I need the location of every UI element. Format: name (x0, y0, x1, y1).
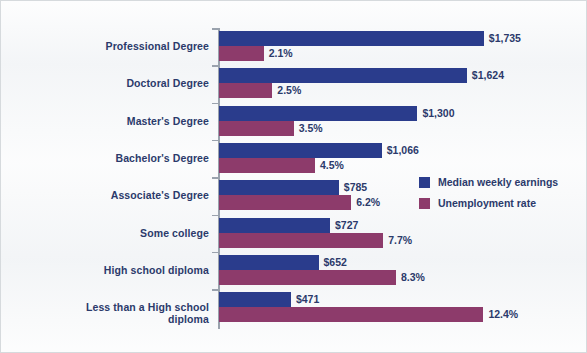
category-label: High school diploma (9, 264, 209, 276)
chart-legend: Median weekly earningsUnemployment rate (419, 176, 558, 218)
bar-median-weekly-earnings (219, 106, 417, 121)
category-label: Professional Degree (9, 40, 209, 52)
legend-label: Unemployment rate (438, 197, 536, 209)
axis-tick (212, 103, 218, 105)
category-label: Associate's Degree (9, 189, 209, 201)
bar-value-earnings: $652 (324, 255, 347, 270)
bar-value-unemployment: 7.7% (388, 233, 412, 248)
legend-swatch-icon (419, 198, 430, 209)
bar-value-unemployment: 2.1% (269, 46, 293, 61)
axis-tick (212, 65, 218, 67)
legend-swatch-icon (419, 177, 430, 188)
bar-unemployment-rate (219, 270, 396, 285)
bar-unemployment-rate (219, 158, 315, 173)
bar-unemployment-rate (219, 83, 272, 98)
bar-value-unemployment: 8.3% (401, 270, 425, 285)
axis-tick (212, 177, 218, 179)
legend-item: Median weekly earnings (419, 176, 558, 188)
axis-tick (212, 289, 218, 291)
bar-median-weekly-earnings (219, 180, 339, 195)
chart-container: Professional DegreeDoctoral DegreeMaster… (0, 0, 587, 353)
bar-median-weekly-earnings (219, 292, 291, 307)
legend-label: Median weekly earnings (438, 176, 558, 188)
bar-value-earnings: $1,735 (489, 31, 521, 46)
axis-tick (212, 28, 218, 30)
bar-median-weekly-earnings (219, 218, 330, 233)
bar-unemployment-rate (219, 307, 483, 322)
category-label: Less than a High school diploma (9, 301, 209, 325)
bar-unemployment-rate (219, 195, 351, 210)
bar-value-unemployment: 4.5% (320, 158, 344, 173)
bar-value-earnings: $471 (296, 292, 319, 307)
bar-value-earnings: $1,066 (387, 143, 419, 158)
bar-median-weekly-earnings (219, 68, 467, 83)
bar-value-earnings: $1,300 (422, 106, 454, 121)
bar-value-unemployment: 2.5% (277, 83, 301, 98)
axis-tick (212, 215, 218, 217)
legend-item: Unemployment rate (419, 197, 558, 209)
bar-value-earnings: $1,624 (472, 68, 504, 83)
axis-tick (212, 140, 218, 142)
bar-median-weekly-earnings (219, 31, 484, 46)
bar-unemployment-rate (219, 233, 383, 248)
bar-value-earnings: $727 (335, 218, 358, 233)
category-label: Doctoral Degree (9, 77, 209, 89)
bar-unemployment-rate (219, 46, 264, 61)
bar-value-unemployment: 3.5% (299, 121, 323, 136)
bar-value-earnings: $785 (344, 180, 367, 195)
axis-tick (212, 252, 218, 254)
bar-value-unemployment: 6.2% (356, 195, 380, 210)
category-label: Master's Degree (9, 115, 209, 127)
category-label: Bachelor's Degree (9, 152, 209, 164)
bar-median-weekly-earnings (219, 143, 382, 158)
bar-unemployment-rate (219, 121, 294, 136)
category-label: Some college (9, 227, 209, 239)
bar-median-weekly-earnings (219, 255, 319, 270)
bar-value-unemployment: 12.4% (488, 307, 518, 322)
